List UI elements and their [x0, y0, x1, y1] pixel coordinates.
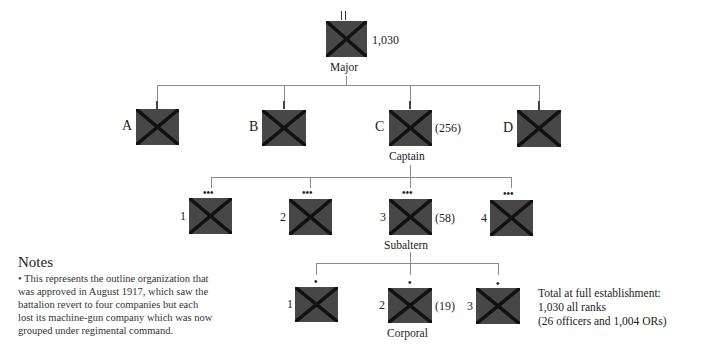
section-3-label: 3 [467, 299, 473, 313]
connector [157, 85, 540, 86]
connector [410, 252, 411, 263]
platoon-3-label: 3 [380, 210, 386, 224]
connector [410, 85, 411, 101]
platoon-1-symbol [189, 198, 232, 234]
battalion-strength: 1,030 [372, 33, 399, 47]
company-a-symbol [136, 109, 179, 145]
section-2-strength: (19) [435, 299, 455, 313]
section-2-label: 2 [379, 298, 385, 312]
notes-line: battalion revert to four companies but e… [18, 298, 318, 311]
section-2-symbol [388, 288, 432, 323]
platoon-size-marker: ••• [503, 190, 514, 198]
company-size-marker [156, 101, 158, 109]
platoon-3-commander: Subaltern [384, 238, 428, 252]
company-d-symbol [517, 110, 561, 147]
platoon-4-symbol [490, 200, 533, 236]
platoon-2-symbol [289, 199, 332, 235]
company-size-marker [538, 101, 540, 110]
platoon-2-label: 2 [280, 210, 286, 224]
section-size-marker: • [496, 280, 500, 288]
platoon-4-label: 4 [481, 211, 487, 225]
company-size-marker [283, 101, 285, 109]
notes-line: lost its machine-gun company which was n… [18, 311, 318, 324]
section-3-symbol [476, 288, 520, 324]
company-c-commander: Captain [389, 149, 425, 163]
company-c-strength: (256) [435, 121, 461, 135]
company-size-marker [409, 101, 411, 109]
platoon-3-strength: (58) [435, 211, 455, 225]
notes-line: grouped under regimental command. [18, 324, 318, 337]
connector [511, 177, 512, 188]
battalion-size-marker-left [341, 11, 342, 20]
company-b-symbol [262, 110, 306, 146]
battalion-commander: Major [330, 60, 358, 74]
company-c-label: C [375, 120, 384, 134]
connector [498, 263, 499, 275]
notes-line: was approved in August 1917, which saw t… [18, 285, 318, 298]
connector [539, 85, 540, 101]
section-size-marker: • [408, 279, 412, 287]
platoon-size-marker: ••• [402, 189, 413, 197]
connector [346, 76, 347, 85]
battalion-size-marker-right [345, 11, 346, 20]
platoon-size-marker: ••• [302, 189, 313, 197]
company-b-label: B [249, 120, 258, 134]
company-c-symbol [389, 110, 432, 146]
company-d-label: D [503, 121, 513, 135]
total-line: (26 officers and 1,004 ORs) [538, 314, 667, 328]
platoon-size-marker: ••• [203, 189, 214, 197]
section-2-commander: Corporal [387, 326, 428, 340]
connector [316, 263, 499, 264]
connector [284, 85, 285, 101]
total-line: Total at full establishment: [538, 286, 667, 300]
battalion-infantry-symbol [326, 21, 367, 57]
connector [410, 263, 411, 275]
notes-line: • This represents the outline organizati… [18, 272, 318, 285]
connector [410, 165, 411, 177]
total-line: 1,030 all ranks [538, 300, 667, 314]
connector [157, 85, 158, 101]
total-establishment: Total at full establishment: 1,030 all r… [538, 286, 667, 328]
platoon-1-label: 1 [180, 209, 186, 223]
company-a-label: A [122, 119, 132, 133]
notes-body: • This represents the outline organizati… [18, 272, 318, 337]
platoon-3-symbol [389, 199, 432, 235]
notes-heading: Notes [18, 254, 53, 271]
connector [211, 177, 512, 178]
